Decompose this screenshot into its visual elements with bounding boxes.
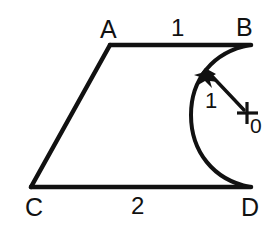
segment-ac — [31, 45, 110, 187]
geometry-diagram: A B C D 1 2 1 0 — [0, 0, 278, 230]
arc-bd — [191, 45, 250, 187]
vertex-label-c: C — [25, 195, 43, 220]
arc-radius-label: 1 — [205, 90, 217, 112]
arc-center-label: 0 — [250, 115, 262, 136]
length-label-top: 1 — [171, 16, 184, 40]
vertex-label-b: B — [236, 15, 253, 40]
length-label-bottom: 2 — [131, 194, 144, 218]
vertex-label-a: A — [100, 17, 117, 42]
vertex-label-d: D — [241, 195, 259, 220]
